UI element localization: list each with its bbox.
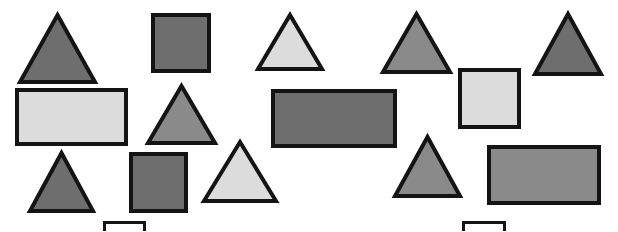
rectangle-path — [464, 223, 505, 232]
square-shape — [151, 13, 211, 73]
triangle-shape — [28, 150, 95, 213]
rectangle-path — [17, 90, 126, 144]
rectangle-path — [489, 147, 599, 203]
rectangle-shape — [487, 145, 601, 205]
triangle-path — [204, 142, 276, 201]
triangle-path — [535, 14, 601, 74]
rectangle-shape — [462, 221, 506, 231]
triangle-shape — [533, 11, 603, 76]
rectangle-shape — [103, 221, 146, 231]
shapes-scene — [0, 0, 618, 231]
square-path — [131, 154, 186, 211]
rectangle-path — [105, 223, 145, 232]
rectangle-path — [273, 91, 395, 146]
triangle-path — [383, 14, 450, 72]
triangle-shape — [146, 83, 217, 145]
triangle-path — [258, 15, 322, 69]
triangle-path — [395, 137, 460, 196]
square-shape — [129, 152, 188, 213]
rectangle-shape — [15, 88, 128, 146]
square-path — [153, 15, 209, 71]
triangle-path — [20, 15, 95, 82]
square-path — [460, 70, 519, 127]
triangle-path — [30, 153, 93, 211]
triangle-path — [148, 86, 215, 143]
square-shape — [458, 68, 521, 129]
triangle-shape — [18, 12, 97, 84]
triangle-shape — [381, 11, 452, 74]
triangle-shape — [202, 139, 278, 203]
rectangle-shape — [271, 89, 397, 148]
triangle-shape — [256, 12, 324, 71]
triangle-shape — [393, 134, 462, 198]
